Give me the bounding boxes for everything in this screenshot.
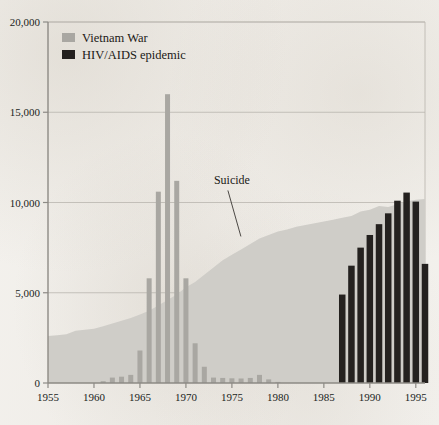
bar (165, 94, 170, 383)
bar (348, 266, 355, 383)
bar (137, 351, 142, 383)
x-tick-label: 1985 (313, 391, 336, 403)
suicide-annotation-label: Suicide (214, 173, 250, 187)
y-axis-ticks: 05,00010,00015,00020,000 (10, 16, 48, 389)
bar (248, 378, 253, 383)
x-tick-label: 1975 (221, 391, 244, 403)
bar (357, 248, 364, 383)
legend: Vietnam War HIV/AIDS epidemic (62, 31, 186, 62)
bar (422, 264, 429, 383)
bar (211, 378, 216, 383)
mortality-chart: 05,00010,00015,00020,000 195519601965197… (0, 0, 439, 425)
bar (257, 375, 262, 383)
bar (367, 235, 374, 383)
bar (174, 181, 179, 383)
bar (183, 278, 188, 383)
x-axis-ticks: 195519601965197019751980198519901995 (37, 383, 427, 403)
legend-swatch-hiv-aids (62, 50, 75, 59)
y-tick-label: 10,000 (10, 197, 41, 209)
x-tick-label: 1995 (405, 391, 428, 403)
bar (110, 378, 115, 383)
x-tick-label: 1960 (83, 391, 106, 403)
bar (147, 278, 152, 383)
y-tick-label: 20,000 (10, 16, 41, 28)
legend-label-hiv-aids-epidemic: HIV/AIDS epidemic (82, 48, 186, 62)
bar (229, 378, 234, 383)
x-tick-label: 1970 (175, 391, 198, 403)
y-tick-label: 15,000 (10, 106, 41, 118)
x-tick-label: 1990 (359, 391, 382, 403)
legend-swatch-vietnam-war (62, 33, 75, 42)
bar (193, 343, 198, 383)
bar (385, 213, 392, 383)
bar (119, 377, 124, 383)
bar (403, 193, 410, 383)
annotation-suicide: Suicide (214, 173, 250, 236)
y-tick-label: 0 (35, 377, 41, 389)
bar (394, 201, 401, 383)
legend-label-vietnam-war: Vietnam War (82, 31, 149, 45)
bar (128, 375, 133, 383)
bar (202, 367, 207, 383)
x-tick-label: 1965 (129, 391, 152, 403)
bar (413, 202, 420, 383)
bar (376, 224, 383, 383)
chart-svg: 05,00010,00015,00020,000 195519601965197… (0, 0, 439, 425)
bar (220, 378, 225, 383)
bar (339, 295, 346, 383)
x-tick-label: 1980 (267, 391, 290, 403)
x-tick-label: 1955 (37, 391, 60, 403)
y-tick-label: 5,000 (15, 287, 40, 299)
bar (156, 192, 161, 383)
